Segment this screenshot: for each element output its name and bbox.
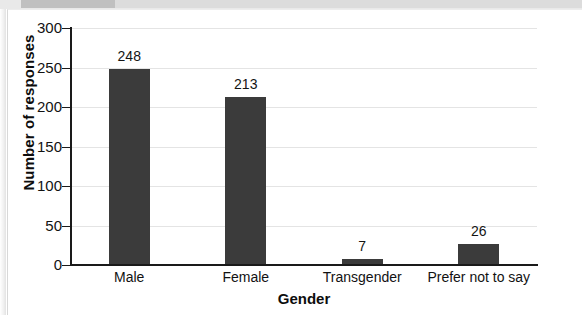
bar-value-label: 26 xyxy=(439,224,519,238)
bar xyxy=(458,244,499,265)
y-axis-tick-mark xyxy=(62,28,70,29)
y-axis-tick-label: 0 xyxy=(18,257,62,272)
y-axis-tick-mark xyxy=(62,265,70,266)
gridline xyxy=(71,28,537,29)
y-axis-title: Number of responses xyxy=(20,13,37,213)
bar-chart: 050100150200250300 248213726 MaleFemaleT… xyxy=(0,0,582,315)
x-axis-title: Gender xyxy=(71,290,537,307)
y-axis-tick-mark xyxy=(62,186,70,187)
y-axis-tick-mark xyxy=(62,226,70,227)
y-axis-line xyxy=(70,27,72,266)
y-axis-tick-mark xyxy=(62,68,70,69)
plot-area: 248213726 xyxy=(71,28,537,265)
chart-page: 050100150200250300 248213726 MaleFemaleT… xyxy=(0,0,582,315)
x-axis-line xyxy=(70,264,538,266)
bar xyxy=(109,69,150,265)
y-axis-tick-mark xyxy=(62,147,70,148)
x-axis-tick-label: Prefer not to say xyxy=(409,270,549,284)
y-axis-tick-mark xyxy=(62,107,70,108)
y-axis-tick-label: 50 xyxy=(18,218,62,233)
bar-value-label: 7 xyxy=(322,239,402,253)
bar xyxy=(225,97,266,265)
bar-value-label: 248 xyxy=(89,49,169,63)
bar-value-label: 213 xyxy=(206,77,286,91)
